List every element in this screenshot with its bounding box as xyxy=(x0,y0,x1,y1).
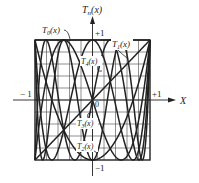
chebyshev-chart: Tn(x) X − 1 +1 +1 −1 0 T0(x) T1(x) T4(x)… xyxy=(0,0,199,183)
y-min-label: −1 xyxy=(95,163,105,173)
x-min-label: − 1 xyxy=(20,89,32,99)
y-axis-label: Tn(x) xyxy=(82,4,103,17)
svg-text:T1(x): T1(x) xyxy=(112,39,130,50)
svg-text:T2(x): T2(x) xyxy=(77,142,94,152)
svg-text:T0(x): T0(x) xyxy=(42,25,60,36)
x-max-label: +1 xyxy=(152,89,162,99)
y-max-label: +1 xyxy=(95,28,105,38)
x-axis-label: X xyxy=(179,95,187,106)
svg-text:T3(x): T3(x) xyxy=(77,119,94,129)
y-axis-arrow-icon xyxy=(90,16,95,24)
origin-label: 0 xyxy=(95,100,99,109)
svg-text:T4(x): T4(x) xyxy=(81,57,98,67)
x-axis-arrow-icon xyxy=(168,98,176,103)
label-t0: T0(x) xyxy=(40,25,70,39)
